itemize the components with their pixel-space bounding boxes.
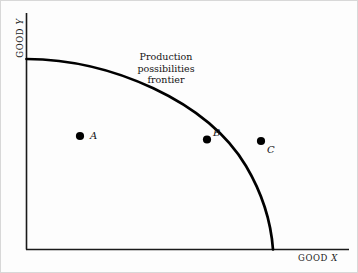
- y-axis-label: GOOD Y: [15, 8, 25, 68]
- y-axis-label-text: GOOD: [15, 24, 25, 57]
- y-axis-label-variable: Y: [15, 18, 25, 24]
- data-point-c-label: C: [267, 144, 275, 155]
- data-point-a-marker: [76, 132, 84, 140]
- frontier-annotation-line-1: Production: [123, 51, 209, 63]
- x-axis-label-text: GOOD: [298, 253, 331, 263]
- frontier-annotation-line-2: possibilities: [123, 63, 209, 75]
- ppf-chart-figure: GOOD Y GOOD X Production possibilities f…: [0, 0, 358, 273]
- x-axis-label: GOOD X: [298, 253, 338, 263]
- frontier-annotation: Production possibilities frontier: [123, 51, 209, 86]
- data-point-a-label: A: [90, 130, 97, 141]
- production-possibilities-frontier-curve: [27, 59, 274, 250]
- chart-canvas: [1, 1, 358, 273]
- data-point-b-marker: [203, 135, 211, 143]
- x-axis-label-variable: X: [331, 253, 338, 263]
- data-point-c-marker: [257, 137, 265, 145]
- data-point-b-label: B: [213, 127, 220, 138]
- frontier-annotation-line-3: frontier: [123, 74, 209, 86]
